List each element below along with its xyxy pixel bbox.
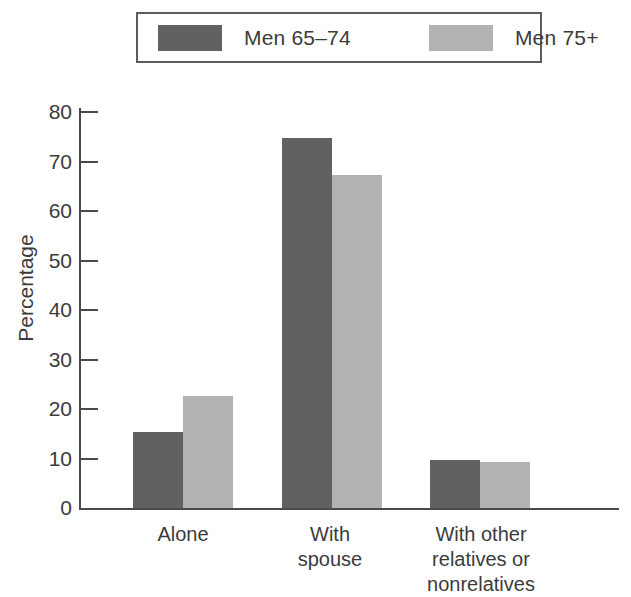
bar-group-0-series-0: [133, 432, 183, 508]
bar-group-0-series-1: [183, 396, 233, 508]
bar-group-2-series-1: [480, 462, 530, 508]
x-axis-category-label-2: With other relatives or nonrelatives: [391, 522, 571, 597]
bar-group-1-series-0: [282, 138, 332, 508]
bars-layer: [0, 0, 631, 508]
bar-group-1-series-1: [332, 175, 382, 508]
bar-group-2-series-0: [430, 460, 480, 508]
x-axis-line: [79, 508, 619, 510]
